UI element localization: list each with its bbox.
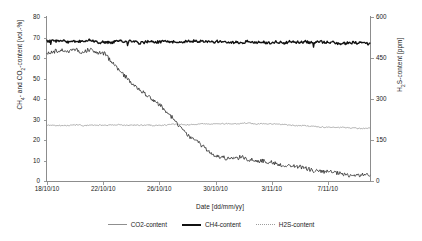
x-tick-label: 30/10/10 bbox=[193, 185, 239, 192]
plot-area bbox=[47, 17, 370, 181]
legend-swatch-icon bbox=[256, 222, 275, 227]
y-tick-mark-right bbox=[371, 58, 374, 59]
x-axis-spine bbox=[46, 181, 371, 182]
x-tick-mark bbox=[328, 182, 329, 185]
y-tick-label-left: 20 bbox=[18, 136, 40, 143]
x-tick-mark bbox=[103, 182, 104, 185]
y-tick-label-left: 80 bbox=[18, 13, 40, 20]
series-line-ch4-content bbox=[47, 39, 370, 47]
y-tick-mark-right bbox=[371, 17, 374, 18]
y-tick-mark-left bbox=[44, 38, 47, 39]
x-tick-mark bbox=[272, 182, 273, 185]
x-tick-label: 3/11/10 bbox=[249, 185, 295, 192]
y-tick-mark-left bbox=[44, 120, 47, 121]
y-tick-mark-left bbox=[44, 17, 47, 18]
chart-legend: CO2-contentCH4-contentH2S-content bbox=[0, 221, 422, 228]
y-tick-label-left: 10 bbox=[18, 157, 40, 164]
y-tick-mark-left bbox=[44, 79, 47, 80]
y-tick-mark-left bbox=[44, 161, 47, 162]
y-tick-label-right: 300 bbox=[376, 95, 402, 102]
x-tick-label: 26/10/10 bbox=[136, 185, 182, 192]
series-line-co2-content bbox=[47, 123, 370, 129]
y-tick-label-left: 40 bbox=[18, 95, 40, 102]
data-series-lines bbox=[47, 17, 370, 181]
series-line-h2s-content bbox=[47, 48, 370, 177]
x-tick-mark bbox=[159, 182, 160, 185]
legend-item[interactable]: CH4-content bbox=[182, 221, 241, 228]
y-tick-label-left: 70 bbox=[18, 34, 40, 41]
y-tick-label-left: 30 bbox=[18, 116, 40, 123]
y-tick-mark-left bbox=[44, 181, 47, 182]
y-tick-label-left: 0 bbox=[18, 177, 40, 184]
y-tick-label-right: 150 bbox=[376, 136, 402, 143]
x-tick-mark bbox=[47, 182, 48, 185]
legend-item[interactable]: H2S-content bbox=[256, 221, 315, 228]
y-tick-mark-right bbox=[371, 140, 374, 141]
y-tick-label-right: 0 bbox=[376, 177, 402, 184]
chart-figure: CH4- and CO2-content [vol.-%] H2S-conten… bbox=[0, 0, 422, 241]
y-tick-label-left: 60 bbox=[18, 54, 40, 61]
y-tick-mark-left bbox=[44, 58, 47, 59]
y-tick-mark-right bbox=[371, 181, 374, 182]
legend-item[interactable]: CO2-content bbox=[108, 221, 167, 228]
y-tick-mark-right bbox=[371, 99, 374, 100]
y-tick-label-right: 450 bbox=[376, 54, 402, 61]
x-tick-label: 22/10/10 bbox=[80, 185, 126, 192]
y-tick-label-right: 600 bbox=[376, 13, 402, 20]
y-tick-mark-left bbox=[44, 99, 47, 100]
legend-label: CH4-content bbox=[205, 221, 241, 228]
legend-label: H2S-content bbox=[279, 221, 315, 228]
y-tick-mark-left bbox=[44, 140, 47, 141]
legend-swatch-icon bbox=[108, 222, 127, 227]
x-tick-label: 18/10/10 bbox=[24, 185, 70, 192]
x-axis-title: Date [dd/mm/yy] bbox=[120, 203, 320, 210]
y-tick-label-left: 50 bbox=[18, 75, 40, 82]
legend-label: CO2-content bbox=[131, 221, 167, 228]
legend-swatch-icon bbox=[182, 222, 201, 227]
x-tick-mark bbox=[216, 182, 217, 185]
x-tick-label: 7/11/10 bbox=[305, 185, 351, 192]
